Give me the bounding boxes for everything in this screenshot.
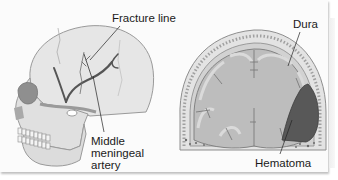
label-dura: Dura bbox=[293, 18, 318, 31]
illustration bbox=[0, 0, 338, 180]
skull-illustration bbox=[14, 26, 154, 166]
label-hematoma: Hematoma bbox=[255, 157, 311, 170]
brain-section-illustration bbox=[180, 30, 326, 150]
label-artery-line3: artery bbox=[91, 159, 120, 172]
label-fracture-line: Fracture line bbox=[112, 12, 176, 25]
